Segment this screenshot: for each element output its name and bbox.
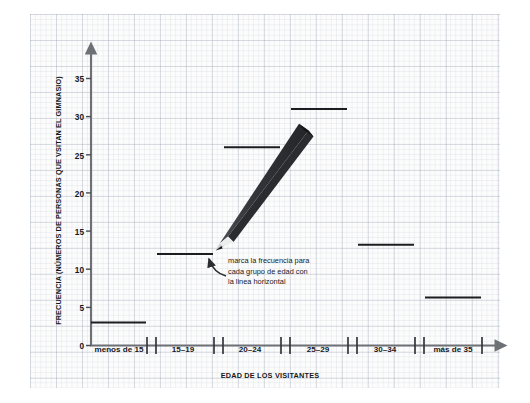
- pencil-icon: [216, 124, 314, 251]
- chart-canvas: [0, 0, 530, 403]
- data-marks: [91, 109, 481, 323]
- chart-page: FRECUENCIA (NÚMEROS DE PERSONAS QUE VSIT…: [0, 0, 530, 403]
- annotation-arrow: [209, 259, 226, 276]
